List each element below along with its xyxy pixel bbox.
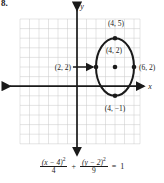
equation-term-2: (y − 2)2 9 (80, 157, 108, 175)
point-left (94, 65, 99, 70)
x-axis-label: x (147, 82, 152, 91)
term2-denominator: 9 (80, 166, 108, 175)
term1-denominator: 4 (40, 166, 68, 175)
grid-lines (20, 19, 140, 144)
point-bottom (113, 94, 118, 99)
term2-numerator: (y − 2) (82, 158, 103, 167)
equation-rhs: 1 (119, 162, 125, 171)
point-label-center: (4, 2) (106, 46, 123, 55)
point-label-right: (6, 2) (139, 63, 156, 72)
equation-equals: = (111, 162, 118, 171)
term1-exponent: 2 (63, 156, 66, 162)
term2-exponent: 2 (103, 156, 106, 162)
equation-term-1: (x − 4)2 4 (40, 157, 68, 175)
point-top (113, 36, 118, 41)
point-right (132, 65, 137, 70)
point-label-top: (4, 5) (108, 19, 125, 28)
y-axis-label: y (79, 2, 84, 11)
point-label-left: (2, 2) (55, 63, 72, 72)
point-label-bottom: (4, −1) (105, 104, 126, 113)
term1-numerator: (x − 4) (42, 158, 63, 167)
point-center (113, 65, 118, 70)
ellipse-equation: (x − 4)2 4 + (y − 2)2 9 = 1 (0, 157, 164, 175)
ellipse-graph-figure: x y (4, 5) (4, 2) (6, 2) (2, 2) (4, −1) (0, 0, 164, 183)
equation-plus: + (70, 162, 77, 171)
